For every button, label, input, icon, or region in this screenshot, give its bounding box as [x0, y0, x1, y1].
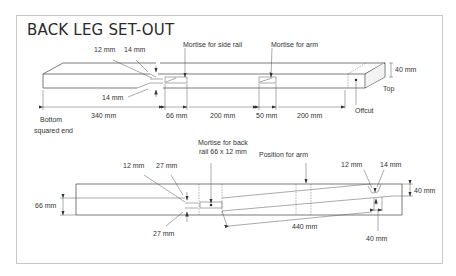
- lower-leg-bar: [76, 184, 402, 215]
- label-width-66mm: 66 mm: [35, 202, 57, 209]
- lower-label-27mm-bottom: 27 mm: [153, 230, 175, 237]
- dim-200mm-b: 200 mm: [297, 112, 322, 119]
- dim-340mm: 340 mm: [91, 112, 116, 119]
- label-mortise-back-rail-2: rail 66 x 12 mm: [199, 148, 247, 155]
- lower-leg-view: Mortise for back rail 66 x 12 mm Positio…: [35, 139, 436, 242]
- label-position-arm: Position for arm: [259, 151, 308, 158]
- label-squared-end: squared end: [34, 127, 73, 135]
- dim-200mm-a: 200 mm: [210, 112, 235, 119]
- label-thickness-40mm: 40 mm: [395, 66, 417, 73]
- lower-label-14mm-right: 14 mm: [380, 161, 402, 168]
- dim-66mm: 66 mm: [166, 112, 188, 119]
- label-mortise-back-rail-1: Mortise for back: [198, 139, 248, 146]
- set-out-drawing: 12 mm 14 mm 14 mm Mortise for side rail …: [0, 0, 456, 276]
- upper-label-14mm-top: 14 mm: [124, 46, 146, 53]
- label-mortise-side-rail: Mortise for side rail: [183, 41, 243, 48]
- upper-label-12mm: 12 mm: [94, 46, 116, 53]
- upper-leg-bar: [43, 63, 385, 88]
- lower-label-12mm-right: 12 mm: [341, 161, 363, 168]
- label-top: Top: [383, 85, 394, 93]
- upper-leg-view: 12 mm 14 mm 14 mm Mortise for side rail …: [34, 41, 417, 135]
- label-mortise-arm: Mortise for arm: [271, 41, 318, 48]
- dim-50mm: 50 mm: [256, 112, 278, 119]
- label-width-40mm: 40 mm: [414, 187, 436, 194]
- label-offcut: Offcut: [355, 107, 374, 114]
- label-bottom: Bottom: [40, 116, 62, 123]
- upper-label-14mm-bottom: 14 mm: [102, 94, 124, 101]
- dim-40mm-bottom: 40 mm: [366, 235, 388, 242]
- dim-440mm: 440 mm: [292, 223, 317, 230]
- lower-label-27mm-top: 27 mm: [156, 162, 178, 169]
- lower-label-12mm: 12 mm: [123, 162, 145, 169]
